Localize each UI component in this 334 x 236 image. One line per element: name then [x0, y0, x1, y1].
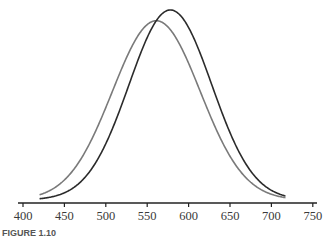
series-curve-b — [40, 10, 286, 199]
x-tick-label-550: 550 — [138, 209, 157, 223]
x-tick-label-650: 650 — [221, 209, 240, 223]
x-tick-label-450: 450 — [55, 209, 74, 223]
series-curve-a — [40, 21, 286, 198]
x-tick-label-400: 400 — [14, 209, 33, 223]
curves-group — [40, 10, 286, 199]
figure-caption: FIGURE 1.10 — [2, 228, 56, 236]
x-tick-label-750: 750 — [303, 209, 322, 223]
x-tick-label-600: 600 — [179, 209, 198, 223]
x-axis-ticks: 400450500550600650700750 — [14, 203, 323, 223]
chart: 400450500550600650700750 FIGURE 1.10 — [0, 0, 334, 236]
x-tick-label-500: 500 — [96, 209, 115, 223]
x-tick-label-700: 700 — [262, 209, 281, 223]
